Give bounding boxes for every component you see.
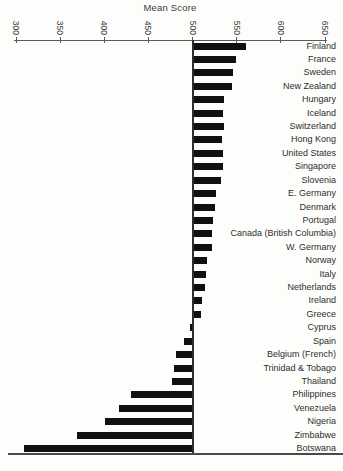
bar [193,297,203,304]
bar [193,69,234,76]
bar [105,418,192,425]
bar [193,217,213,224]
country-label: Hungary [302,94,336,105]
country-label: Hong Kong [291,134,336,145]
country-label: Denmark [299,202,336,213]
bar [176,351,193,358]
bar [193,257,207,264]
country-label: Belgium (French) [267,349,336,360]
axis-tick-label: 450 [143,21,153,35]
axis-tick-label: 400 [99,21,109,35]
country-label: Iceland [307,108,336,119]
axis-tick [16,37,17,43]
bar [193,136,222,143]
bar [193,311,201,318]
bar [193,110,224,117]
axis-tick-label: 550 [232,21,242,35]
bottom-rule [8,453,343,455]
bar [193,56,236,63]
country-label: Venezuela [294,403,336,414]
axis-tick-label: 650 [320,21,330,35]
bar [193,163,223,170]
country-label: Nigeria [307,416,336,427]
country-label: Thailand [301,376,336,387]
country-label: Trinidad & Tobago [263,363,336,374]
bar [193,123,225,130]
axis-tick-label: 600 [276,21,286,35]
country-label: United States [282,148,336,159]
bar [193,96,225,103]
country-label: W. Germany [286,242,336,253]
axis-tick-label: 500 [188,21,198,35]
country-label: New Zealand [283,81,336,92]
axis-tick-label: 350 [55,21,65,35]
bar [193,150,224,157]
country-label: Slovenia [301,175,336,186]
axis-tick [60,37,61,43]
bar [174,365,193,372]
bar [193,204,215,211]
country-label: Finland [306,41,336,52]
country-label: Spain [313,336,336,347]
bar [193,177,221,184]
axis-tick [148,37,149,43]
bar [193,271,206,278]
country-label: Singapore [295,161,336,172]
country-label: Zimbabwe [294,430,336,441]
country-label: France [308,54,336,65]
country-label: Netherlands [287,282,336,293]
reference-line-500 [192,40,194,453]
bar [77,432,193,439]
country-label: Norway [305,255,336,266]
country-label: Canada (British Columbia) [230,228,336,239]
country-label: Italy [319,269,336,280]
bar-chart: Mean Score 300350400450500550600650 Finl… [0,0,343,471]
bar [193,244,212,251]
country-label: Switzerland [289,121,336,132]
country-label: Portugal [302,215,336,226]
bar [193,43,246,50]
bar [193,190,216,197]
country-label: Cyprus [307,322,336,333]
bar [131,391,193,398]
bar [193,83,233,90]
axis-tick [280,37,281,43]
country-label: Sweden [303,67,336,78]
bar [193,230,212,237]
country-label: Philippines [292,389,336,400]
bar [24,445,193,452]
axis-tick-label: 300 [11,21,21,35]
axis-tick [104,37,105,43]
country-label: E. Germany [288,188,336,199]
bar [119,405,192,412]
bar [193,284,205,291]
bar [172,378,192,385]
country-label: Ireland [308,295,336,306]
chart-title: Mean Score [143,2,196,13]
country-label: Greece [306,309,336,320]
